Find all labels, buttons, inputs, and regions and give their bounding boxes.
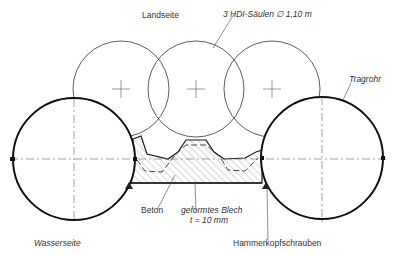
label-hdi-columns: 3 HDI-Säulen ∅ 1,10 m	[223, 9, 312, 19]
label-beton: Beton	[141, 205, 163, 215]
concrete-fill	[131, 136, 262, 183]
label-blech: geformtes Blech	[181, 205, 243, 215]
center-marks	[112, 80, 281, 98]
label-wasserseite: Wasserseite	[34, 238, 81, 248]
label-tragrohr: Tragrohr	[349, 74, 382, 84]
label-blech-thickness: t = 10 mm	[190, 215, 228, 225]
label-landseite: Landseite	[142, 10, 179, 20]
cross-section-diagram: Landseite 3 HDI-Säulen ∅ 1,10 m Tragrohr…	[0, 0, 395, 254]
label-hammerkopf: Hammerkopfschrauben	[233, 238, 322, 248]
